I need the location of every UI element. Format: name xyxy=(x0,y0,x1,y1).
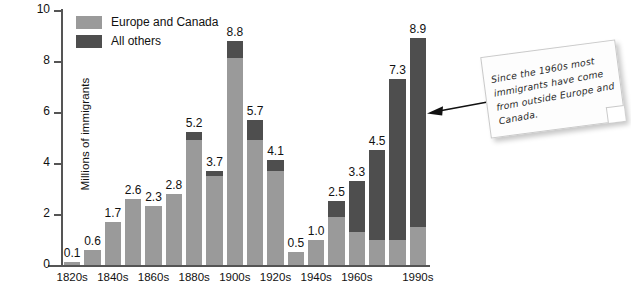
bar-segment-all-others xyxy=(247,120,263,140)
bar-segment-europe-and-canada xyxy=(308,240,324,266)
bar-value-label: 4.5 xyxy=(369,135,386,148)
x-axis-label-1960s: 1960s xyxy=(341,270,372,284)
y-tick-label: 2 xyxy=(43,206,50,220)
bar-1880s: 5.2 xyxy=(186,132,202,265)
bar-segment-europe-and-canada xyxy=(105,222,121,265)
bar-1950s: 2.5 xyxy=(328,201,344,265)
y-tick-label: 8 xyxy=(43,53,50,67)
bar-segment-europe-and-canada xyxy=(389,240,405,266)
bar-value-label: 1.7 xyxy=(104,207,121,220)
bar-segment-all-others xyxy=(369,150,385,239)
legend-item-all-others: All others xyxy=(76,35,218,48)
bar-1940s: 1.0 xyxy=(308,240,324,266)
bar-value-label: 5.7 xyxy=(247,105,264,118)
bar-segment-europe-and-canada xyxy=(206,176,222,265)
bar-segment-all-others xyxy=(267,160,283,170)
bar-segment-europe-and-canada xyxy=(410,227,426,265)
annotation-sticky-note: Since the 1960s most immigrants have com… xyxy=(480,39,626,138)
bar-1980s: 7.3 xyxy=(389,79,405,265)
legend-item-europe-and-canada: Europe and Canada xyxy=(76,16,218,29)
bar-1970s: 4.5 xyxy=(369,150,385,265)
x-axis-line xyxy=(48,265,430,267)
bar-segment-europe-and-canada xyxy=(227,58,243,265)
bar-segment-europe-and-canada xyxy=(166,194,182,265)
bar-segment-all-others xyxy=(410,38,426,227)
bar-value-label: 0.1 xyxy=(64,247,81,260)
y-tick-10: 10 xyxy=(54,10,62,12)
bar-1890s: 3.7 xyxy=(206,171,222,265)
y-tick-label: 4 xyxy=(43,155,50,169)
bar-segment-europe-and-canada xyxy=(64,262,80,265)
bar-segment-europe-and-canada xyxy=(267,171,283,265)
x-axis-label-1840s: 1840s xyxy=(97,270,128,284)
x-axis-label-1990s: 1990s xyxy=(402,270,433,284)
bar-segment-europe-and-canada xyxy=(186,140,202,265)
x-axis-label-1920s: 1920s xyxy=(260,270,291,284)
bar-segment-all-others xyxy=(227,41,243,59)
y-tick-mark xyxy=(54,61,62,63)
bar-value-label: 1.0 xyxy=(308,225,325,238)
bar-segment-all-others xyxy=(328,201,344,216)
bar-value-label: 8.9 xyxy=(409,23,426,36)
y-tick-mark xyxy=(54,112,62,114)
y-tick-mark xyxy=(54,163,62,165)
bar-segment-europe-and-canada xyxy=(145,206,161,265)
bar-segment-europe-and-canada xyxy=(247,140,263,265)
y-tick-label: 10 xyxy=(37,2,50,16)
legend-swatch-europe-and-canada xyxy=(76,16,102,29)
y-tick-8: 8 xyxy=(54,61,62,63)
y-axis-title: Millions of immigrants xyxy=(79,39,91,229)
bar-segment-europe-and-canada xyxy=(125,199,141,265)
y-tick-label: 6 xyxy=(43,104,50,118)
bar-segment-europe-and-canada xyxy=(369,240,385,266)
x-axis-label-1900s: 1900s xyxy=(219,270,250,284)
bar-value-label: 3.3 xyxy=(348,166,365,179)
bar-value-label: 4.1 xyxy=(267,145,284,158)
bar-value-label: 5.2 xyxy=(186,117,203,130)
legend-swatch-all-others xyxy=(76,35,102,48)
bar-value-label: 3.7 xyxy=(206,156,223,169)
immigration-stacked-bar-chart: Millions of immigrants 0246810 0.10.61.7… xyxy=(0,0,631,296)
bar-value-label: 2.8 xyxy=(165,179,182,192)
y-tick-mark xyxy=(54,10,62,12)
sticky-note-fold-corner xyxy=(606,105,626,123)
bar-value-label: 0.6 xyxy=(84,235,101,248)
y-tick-4: 4 xyxy=(54,163,62,165)
bar-1840s: 1.7 xyxy=(105,222,121,265)
bar-1820s: 0.1 xyxy=(64,262,80,265)
annotation-note-text: Since the 1960s most immigrants have com… xyxy=(490,51,618,128)
y-tick-label: 0 xyxy=(43,257,50,271)
bar-segment-all-others xyxy=(349,181,365,232)
bar-value-label: 0.5 xyxy=(287,237,304,250)
y-tick-2: 2 xyxy=(54,214,62,216)
bar-segment-europe-and-canada xyxy=(288,252,304,265)
bar-segment-all-others xyxy=(389,79,405,240)
bar-1990s: 8.9 xyxy=(410,38,426,265)
x-axis-label-1940s: 1940s xyxy=(300,270,331,284)
bar-value-label: 7.3 xyxy=(389,64,406,77)
y-tick-0: 0 xyxy=(54,265,62,267)
bar-1860s: 2.3 xyxy=(145,206,161,265)
bar-1960s: 3.3 xyxy=(349,181,365,265)
bar-1920s: 4.1 xyxy=(267,160,283,265)
bar-segment-europe-and-canada xyxy=(84,250,100,265)
bar-value-label: 2.3 xyxy=(145,191,162,204)
bar-value-label: 2.6 xyxy=(125,184,142,197)
bar-1850s: 2.6 xyxy=(125,199,141,265)
bar-value-label: 2.5 xyxy=(328,186,345,199)
bar-1900s: 8.8 xyxy=(227,41,243,265)
bar-value-label: 8.8 xyxy=(226,26,243,39)
bar-segment-all-others xyxy=(186,132,202,140)
x-axis-label-1860s: 1860s xyxy=(138,270,169,284)
bar-1870s: 2.8 xyxy=(166,194,182,265)
bar-1910s: 5.7 xyxy=(247,120,263,265)
x-axis-label-1880s: 1880s xyxy=(178,270,209,284)
annotation-arrow-icon xyxy=(425,98,495,120)
y-tick-mark xyxy=(54,214,62,216)
bar-segment-europe-and-canada xyxy=(349,232,365,265)
y-tick-6: 6 xyxy=(54,112,62,114)
bar-segment-europe-and-canada xyxy=(328,217,344,265)
legend-label-europe-and-canada: Europe and Canada xyxy=(111,16,218,29)
y-tick-mark xyxy=(54,265,62,267)
legend-label-all-others: All others xyxy=(111,35,161,48)
